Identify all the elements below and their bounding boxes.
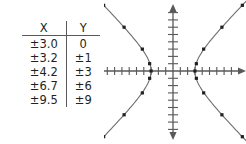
table-body: ±3.0 0 ±3.2 ±1 ±4.2 ±3 ±6.7 ±6 ±9.5 ±9 xyxy=(22,36,100,108)
plotted-point xyxy=(220,26,223,29)
cell-x: ±4.2 xyxy=(22,65,66,79)
plotted-point xyxy=(148,62,151,65)
cell-y: ±6 xyxy=(66,79,100,93)
hyperbola-figure: X Y ±3.0 0 ±3.2 ±1 ±4.2 ±3 ±6.7 xyxy=(0,0,246,144)
y-axis-arrow-down-icon xyxy=(169,132,176,140)
cell-y: 0 xyxy=(66,36,100,52)
cell-x: ±3.2 xyxy=(22,51,66,65)
plotted-point xyxy=(141,48,144,51)
plotted-point xyxy=(220,113,223,116)
column-header-x: X xyxy=(22,21,66,36)
column-header-y: Y xyxy=(66,21,100,36)
plotted-point xyxy=(241,135,244,138)
plotted-point xyxy=(202,48,205,51)
cell-y: ±9 xyxy=(66,93,100,107)
cell-y: ±3 xyxy=(66,65,100,79)
cell-y: ±1 xyxy=(66,51,100,65)
table-row: ±6.7 ±6 xyxy=(22,79,100,93)
cell-x: ±6.7 xyxy=(22,79,66,93)
cell-x: ±9.5 xyxy=(22,93,66,107)
plotted-point xyxy=(150,69,153,72)
value-table: X Y ±3.0 0 ±3.2 ±1 ±4.2 ±3 ±6.7 xyxy=(22,21,100,107)
plotted-point xyxy=(122,113,125,116)
graph-svg xyxy=(104,0,246,144)
plotted-point xyxy=(195,77,198,80)
plotted-point xyxy=(241,4,244,7)
table-row: ±3.0 0 xyxy=(22,36,100,52)
xy-table: X Y ±3.0 0 ±3.2 ±1 ±4.2 ±3 ±6.7 xyxy=(22,21,100,107)
hyperbola-graph xyxy=(104,0,246,144)
plotted-point xyxy=(104,135,105,138)
plotted-point xyxy=(195,62,198,65)
table-header: X Y xyxy=(22,21,100,36)
table-row: ±3.2 ±1 xyxy=(22,51,100,65)
y-axis-arrow-up-icon xyxy=(169,4,176,12)
table-header-row: X Y xyxy=(22,21,100,36)
cell-x: ±3.0 xyxy=(22,36,66,52)
plotted-point xyxy=(193,69,196,72)
table-row: ±4.2 ±3 xyxy=(22,65,100,79)
plotted-point xyxy=(202,91,205,94)
table-row: ±9.5 ±9 xyxy=(22,93,100,107)
plotted-point xyxy=(141,91,144,94)
plotted-point xyxy=(148,77,151,80)
plotted-point xyxy=(104,4,105,7)
x-axis-arrow-right-icon xyxy=(238,67,246,74)
plotted-point xyxy=(122,26,125,29)
